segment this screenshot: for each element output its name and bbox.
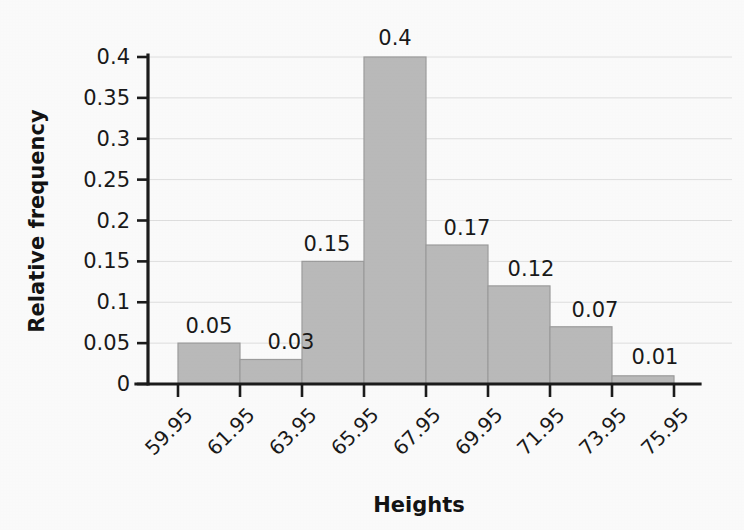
x-axis-title: Heights: [373, 493, 465, 517]
x-tick-label-63.95: 63.95: [264, 403, 321, 460]
x-tick-label-67.95: 67.95: [388, 403, 445, 460]
histogram-bar-63.95-65.95: [302, 261, 364, 384]
y-tick-label-0.35: 0.35: [83, 86, 130, 110]
bar-value-label-73.95-75.95: 0.01: [632, 345, 679, 369]
bar-value-label-61.95-63.95: 0.03: [268, 330, 315, 354]
bar-value-label-67.95-69.95: 0.17: [444, 216, 491, 240]
x-tick-label-73.95: 73.95: [574, 403, 631, 460]
y-tick-label-0.4: 0.4: [97, 45, 130, 69]
y-tick-label-0: 0: [117, 372, 130, 396]
y-tick-label-0.1: 0.1: [97, 290, 130, 314]
bar-value-label-59.95-61.95: 0.05: [186, 314, 233, 338]
x-tick-label-71.95: 71.95: [512, 403, 569, 460]
histogram-bar-61.95-63.95: [240, 359, 302, 384]
y-axis-title: Relative frequency: [25, 109, 49, 333]
y-tick-label-0.3: 0.3: [97, 127, 130, 151]
histogram-bar-65.95-67.95: [364, 57, 426, 384]
x-tick-label-61.95: 61.95: [202, 403, 259, 460]
y-tick-label-0.15: 0.15: [83, 249, 130, 273]
histogram-bar-71.95-73.95: [550, 327, 612, 384]
bar-value-label-69.95-71.95: 0.12: [508, 257, 555, 281]
x-tick-label-75.95: 75.95: [636, 403, 693, 460]
y-tick-label-0.05: 0.05: [83, 331, 130, 355]
relative-frequency-histogram: 00.050.10.150.20.250.30.350.459.9561.956…: [0, 0, 744, 530]
histogram-canvas: 00.050.10.150.20.250.30.350.459.9561.956…: [0, 0, 744, 530]
x-tick-label-69.95: 69.95: [450, 403, 507, 460]
histogram-bar-67.95-69.95: [426, 245, 488, 384]
histogram-bar-69.95-71.95: [488, 286, 550, 384]
bar-value-label-63.95-65.95: 0.15: [304, 232, 351, 256]
histogram-bar-59.95-61.95: [178, 343, 240, 384]
y-tick-label-0.25: 0.25: [83, 168, 130, 192]
y-tick-label-0.2: 0.2: [97, 209, 130, 233]
bar-value-label-65.95-67.95: 0.4: [378, 26, 411, 50]
x-tick-label-65.95: 65.95: [326, 403, 383, 460]
bar-value-label-71.95-73.95: 0.07: [572, 298, 619, 322]
x-tick-label-59.95: 59.95: [140, 403, 197, 460]
